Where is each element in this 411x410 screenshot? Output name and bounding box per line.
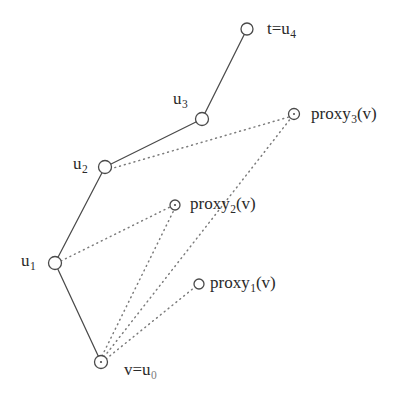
solid-edge-u0-u1 bbox=[55, 263, 101, 362]
figure-root: { "figure": { "type": "diagram", "kind":… bbox=[0, 0, 411, 410]
node-marker-u3[interactable] bbox=[196, 113, 209, 126]
solid-edge-u1-u2 bbox=[55, 167, 105, 263]
node-label-u3: u3 bbox=[173, 90, 188, 107]
node-marker-group bbox=[49, 23, 300, 369]
node-label-proxy3: proxy3(v) bbox=[311, 105, 377, 122]
node-label-u0: v=u0 bbox=[124, 361, 157, 378]
node-label-u4: t=u4 bbox=[267, 20, 296, 37]
dotted-edge-u0-proxy2 bbox=[102, 210, 174, 356]
node-label-u2: u2 bbox=[73, 155, 88, 172]
node-label-proxy1: proxy1(v) bbox=[210, 274, 276, 291]
solid-edge-u2-u3 bbox=[105, 119, 202, 167]
node-label-u1: u1 bbox=[21, 252, 36, 269]
node-marker-proxy1[interactable] bbox=[194, 279, 204, 289]
center-dot-proxy2 bbox=[174, 204, 176, 206]
node-marker-u2[interactable] bbox=[99, 161, 112, 174]
center-dot-proxy3 bbox=[293, 113, 295, 115]
node-marker-u1[interactable] bbox=[49, 257, 62, 270]
dotted-edge-group bbox=[61, 117, 291, 359]
node-marker-u4[interactable] bbox=[241, 23, 253, 35]
center-dot-u0 bbox=[100, 361, 102, 363]
node-label-proxy2: proxy2(v) bbox=[190, 195, 256, 212]
solid-edge-u3-u4 bbox=[202, 29, 247, 119]
